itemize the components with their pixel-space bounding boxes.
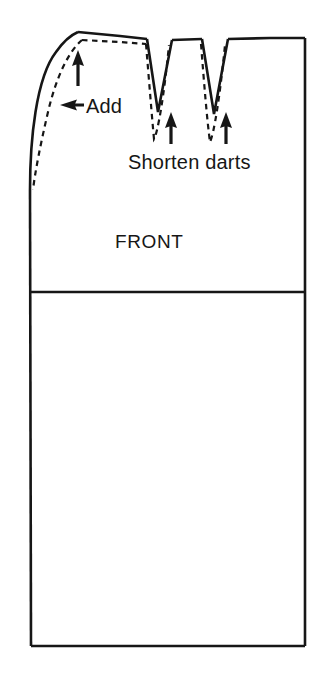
up-arrow-dart-right-icon: [220, 112, 232, 144]
top-edge-left-solid: [78, 32, 147, 39]
left-side-seam: [30, 190, 31, 646]
label-front-piece: FRONT: [115, 232, 183, 251]
pattern-diagram: Add Shorten darts FRONT: [0, 0, 316, 673]
label-add: Add: [86, 96, 122, 116]
top-edge-right-solid: [228, 38, 305, 39]
up-arrow-dart-left-icon: [165, 112, 177, 144]
dart-left-solid: [147, 39, 172, 112]
top-edge-middle-solid: [172, 39, 202, 40]
left-arrow-add-icon: [60, 100, 84, 111]
armhole-curve-solid: [30, 32, 78, 190]
up-arrow-shoulder-icon: [72, 50, 84, 86]
pattern-outline-svg: [0, 0, 316, 673]
label-shorten-darts: Shorten darts: [128, 152, 251, 172]
shoulder-line-dashed: [82, 40, 146, 44]
